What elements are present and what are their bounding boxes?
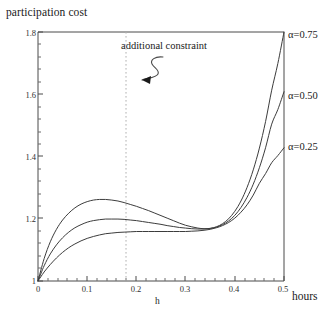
data-curves xyxy=(38,32,284,281)
plot-area xyxy=(0,0,334,321)
curve-alpha-025 xyxy=(38,148,284,281)
x-axis-major-ticks xyxy=(38,276,284,281)
annotation-squiggle-arrow xyxy=(142,57,163,84)
chart-figure: participation cost hours h additional co… xyxy=(0,0,334,321)
